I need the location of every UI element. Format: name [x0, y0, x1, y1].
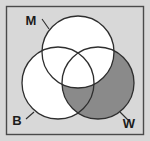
- venn-diagram-canvas: M B W: [0, 0, 150, 141]
- venn-label-b: B: [12, 113, 21, 128]
- venn-label-w: W: [123, 116, 136, 131]
- venn-label-m: M: [26, 13, 37, 28]
- venn-diagram-figure: M B W: [0, 0, 150, 141]
